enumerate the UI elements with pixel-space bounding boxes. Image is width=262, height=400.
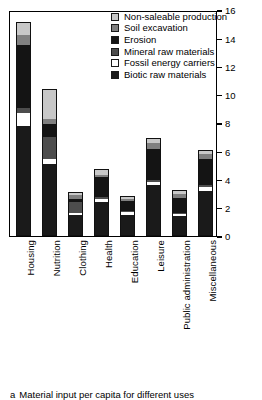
caption-marker: a: [10, 389, 15, 400]
x-axis: HousingNutritionClothingHealthEducationL…: [9, 240, 217, 358]
legend-item-erosion: Erosion: [111, 34, 261, 46]
segment-biotic-raw-materials: [43, 164, 56, 235]
segment-erosion: [147, 149, 160, 181]
y-tick-mark: [217, 236, 222, 237]
legend-label: Mineral raw materials: [124, 47, 214, 57]
bar-education: [120, 196, 135, 236]
y-tick-label: 10: [225, 91, 236, 101]
bar-nutrition: [42, 89, 57, 236]
x-tick-label-housing: Housing: [26, 240, 36, 276]
segment-biotic-raw-materials: [17, 126, 30, 235]
bar-clothing: [68, 192, 83, 236]
y-tick-label: 2: [225, 204, 230, 214]
segment-soil-excavation: [17, 35, 30, 46]
chart-legend: Non-saleable productionSoil excavationEr…: [111, 11, 261, 81]
legend-swatch-icon: [111, 24, 119, 32]
y-tick-mark: [217, 123, 222, 124]
y-tick-label: 0: [225, 232, 230, 242]
legend-label: Non-saleable production: [124, 12, 227, 22]
y-tick-label: 6: [225, 147, 230, 157]
x-tick-label-nutrition: Nutrition: [52, 240, 62, 276]
bar-miscellaneous: [198, 150, 213, 236]
y-tick-mark: [217, 180, 222, 181]
bar-health: [94, 169, 109, 236]
segment-biotic-raw-materials: [95, 202, 108, 235]
x-tick-label-miscellaneous: Miscellaneous: [208, 240, 218, 302]
x-tick-label-health: Health: [104, 240, 114, 268]
segment-erosion: [43, 124, 56, 138]
x-tick-label-clothing: Clothing: [78, 240, 88, 276]
y-tick-mark: [217, 208, 222, 209]
legend-item-non-saleable-production: Non-saleable production: [111, 11, 261, 23]
legend-label: Erosion: [124, 35, 156, 45]
y-tick-mark: [217, 95, 222, 96]
bar-public-administration: [172, 190, 187, 236]
segment-biotic-raw-materials: [69, 215, 82, 235]
segment-erosion: [121, 201, 134, 210]
legend-swatch-icon: [111, 48, 119, 56]
x-tick-label-leisure: Leisure: [156, 240, 166, 272]
legend-label: Soil excavation: [124, 23, 188, 33]
segment-biotic-raw-materials: [147, 185, 160, 235]
bar-leisure: [146, 138, 161, 236]
x-tick-label-public-administration: Public administration: [182, 240, 192, 330]
legend-item-biotic-raw-materials: Biotic raw materials: [111, 69, 261, 81]
segment-erosion: [173, 198, 186, 213]
y-tick-label: 4: [225, 175, 230, 185]
segment-biotic-raw-materials: [199, 191, 212, 235]
segment-erosion: [17, 45, 30, 108]
legend-label: Fossil energy carriers: [124, 58, 215, 68]
segment-erosion: [199, 159, 212, 185]
legend-swatch-icon: [111, 71, 119, 79]
y-tick-mark: [217, 152, 222, 153]
legend-item-mineral-raw-materials: Mineral raw materials: [111, 46, 261, 58]
segment-non-saleable-production: [43, 90, 56, 119]
legend-item-soil-excavation: Soil excavation: [111, 23, 261, 35]
segment-mineral-raw-materials: [43, 137, 56, 159]
segment-biotic-raw-materials: [173, 216, 186, 235]
x-tick-label-education: Education: [130, 240, 140, 283]
segment-mineral-raw-materials: [69, 202, 82, 213]
figure-caption: aMaterial input per capita for different…: [10, 389, 260, 400]
legend-label: Biotic raw materials: [124, 70, 206, 80]
segment-erosion: [95, 177, 108, 198]
bar-housing: [16, 22, 31, 236]
segment-biotic-raw-materials: [121, 215, 134, 235]
legend-item-fossil-energy-carriers: Fossil energy carriers: [111, 57, 261, 69]
legend-swatch-icon: [111, 59, 119, 67]
y-tick-label: 8: [225, 119, 230, 129]
legend-swatch-icon: [111, 36, 119, 44]
caption-text: Material input per capita for different …: [19, 389, 194, 400]
segment-non-saleable-production: [17, 23, 30, 35]
segment-fossil-energy-carriers: [17, 113, 30, 126]
legend-swatch-icon: [111, 13, 119, 21]
